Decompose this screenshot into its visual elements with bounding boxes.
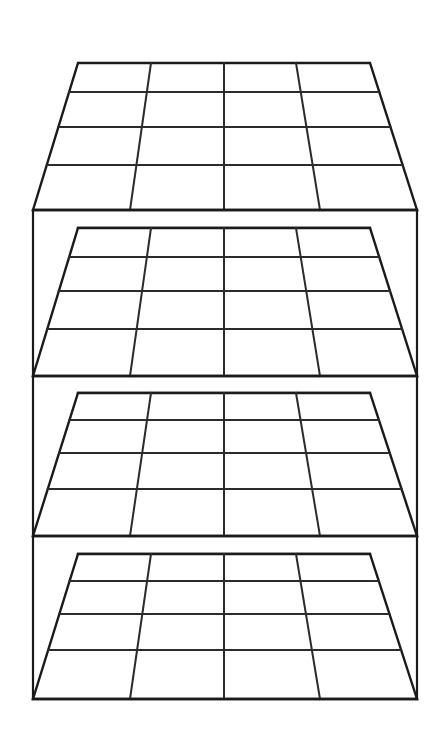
shelf-1-group <box>33 63 417 228</box>
shelving-unit-illustration <box>0 0 441 746</box>
drawing-canvas <box>0 0 441 746</box>
shelf-4-group <box>33 554 417 699</box>
shelf-2-group <box>33 228 417 393</box>
shelf-3-group <box>33 393 417 554</box>
